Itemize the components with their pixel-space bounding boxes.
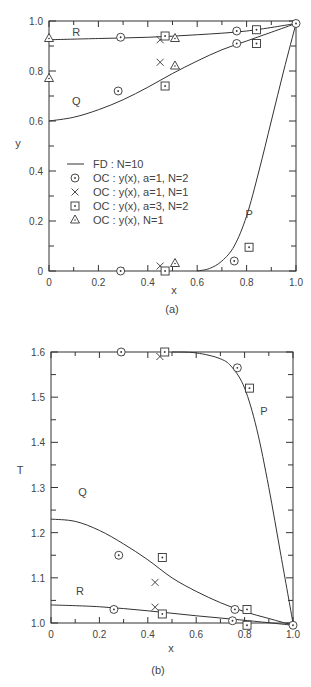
marker-dot xyxy=(161,557,163,559)
curve-label-r: R xyxy=(72,26,80,38)
chart-a-markers xyxy=(45,20,301,276)
marker-dot xyxy=(256,43,258,45)
fd-curve xyxy=(172,352,293,623)
curve-label-q: Q xyxy=(78,486,87,498)
chart-a-panel-label: (a) xyxy=(165,303,178,315)
chart-a-legend: FD : N=10OC : y(x), a=1, N=2OC : y(x), a… xyxy=(67,158,188,226)
plot-frame xyxy=(49,21,296,271)
chart-b-curve-labels: PQR xyxy=(76,405,268,598)
marker-dot xyxy=(74,219,76,221)
chart-b-panel-label: (b) xyxy=(151,664,164,676)
marker-dot xyxy=(246,609,248,611)
triangle-marker xyxy=(170,34,179,42)
marker-dot xyxy=(74,205,76,207)
chart-a-ylabel: y xyxy=(15,137,21,149)
chart-a: 00.20.40.60.81.000.20.40.60.81.0 RQP FD … xyxy=(0,0,311,340)
y-tick-label: 1.6 xyxy=(31,347,45,358)
legend-item-label: OC : y(x), a=1, N=2 xyxy=(93,172,188,184)
chart-b-curves xyxy=(51,352,293,625)
marker-dot xyxy=(174,263,176,265)
marker-dot xyxy=(174,38,176,40)
x-tick-label: 0 xyxy=(46,277,52,288)
x-tick-label: 0.8 xyxy=(238,629,252,640)
y-tick-label: 0.4 xyxy=(29,166,43,177)
chart-b-xlabel: x xyxy=(168,642,174,654)
marker-dot xyxy=(120,351,122,353)
x-tick-label: 0.6 xyxy=(190,277,204,288)
y-tick-label: 1.1 xyxy=(31,573,45,584)
triangle-marker xyxy=(71,215,80,223)
legend-item-label: OC : y(x), a=3, N=2 xyxy=(93,200,188,212)
marker-dot xyxy=(248,246,250,248)
y-tick-label: 1.2 xyxy=(31,528,45,539)
marker-dot xyxy=(249,387,251,389)
cross-marker xyxy=(152,579,159,586)
chart-b-axes: 00.20.40.60.81.01.01.11.21.31.41.51.6 xyxy=(31,347,300,640)
x-tick-label: 0.2 xyxy=(91,277,105,288)
marker-dot xyxy=(164,351,166,353)
chart-a-curves xyxy=(49,24,296,272)
curve-label-r: R xyxy=(76,585,84,597)
marker-dot xyxy=(246,624,248,626)
marker-dot xyxy=(233,260,235,262)
curve-label-p: P xyxy=(260,405,267,417)
x-tick-label: 0.6 xyxy=(189,629,203,640)
y-tick-label: 1.3 xyxy=(31,483,45,494)
chart-a-xlabel: x xyxy=(171,284,177,296)
marker-dot xyxy=(236,30,238,32)
y-tick-label: 0.8 xyxy=(29,66,43,77)
marker-dot xyxy=(236,43,238,45)
marker-dot xyxy=(164,270,166,272)
marker-dot xyxy=(292,624,294,626)
marker-dot xyxy=(48,38,50,40)
chart-b: 00.20.40.60.81.01.01.11.21.31.41.51.6 PQ… xyxy=(0,340,311,687)
triangle-marker xyxy=(45,34,54,42)
curve-label-q: Q xyxy=(72,95,81,107)
plot-frame xyxy=(51,352,293,623)
legend-item-label: OC : y(x), N=1 xyxy=(93,214,164,226)
x-tick-label: 0.2 xyxy=(92,629,106,640)
marker-dot xyxy=(161,613,163,615)
marker-dot xyxy=(256,29,258,31)
marker-dot xyxy=(232,620,234,622)
x-tick-label: 1.0 xyxy=(289,277,303,288)
chart-a-axes: 00.20.40.60.81.000.20.40.60.81.0 xyxy=(29,16,303,288)
x-tick-label: 0.4 xyxy=(141,629,155,640)
cross-marker xyxy=(72,189,79,196)
marker-dot xyxy=(164,85,166,87)
y-tick-label: 1.0 xyxy=(29,16,43,27)
y-tick-label: 1.5 xyxy=(31,392,45,403)
marker-dot xyxy=(236,367,238,369)
chart-b-ylabel: T xyxy=(17,464,24,476)
legend-item-label: OC : y(x), a=1, N=1 xyxy=(93,186,188,198)
marker-dot xyxy=(120,270,122,272)
marker-dot xyxy=(48,78,50,80)
marker-dot xyxy=(118,554,120,556)
y-tick-label: 0 xyxy=(37,266,43,277)
marker-dot xyxy=(174,65,176,67)
fd-curve xyxy=(51,519,293,625)
marker-dot xyxy=(234,609,236,611)
x-tick-label: 0 xyxy=(48,629,54,640)
x-tick-label: 0.4 xyxy=(141,277,155,288)
y-tick-label: 0.6 xyxy=(29,116,43,127)
triangle-marker xyxy=(170,259,179,267)
fd-curve xyxy=(197,24,296,272)
marker-dot xyxy=(295,23,297,25)
marker-dot xyxy=(120,36,122,38)
marker-dot xyxy=(74,177,76,179)
x-tick-label: 0.8 xyxy=(240,277,254,288)
triangle-marker xyxy=(170,61,179,69)
marker-dot xyxy=(117,90,119,92)
y-tick-label: 1.0 xyxy=(31,618,45,629)
marker-dot xyxy=(113,609,115,611)
y-tick-label: 0.2 xyxy=(29,216,43,227)
x-tick-label: 1.0 xyxy=(286,629,300,640)
cross-marker xyxy=(157,59,164,66)
triangle-marker xyxy=(45,74,54,82)
y-tick-label: 1.4 xyxy=(31,437,45,448)
curve-label-p: P xyxy=(245,208,252,220)
cross-marker xyxy=(152,604,159,611)
marker-dot xyxy=(164,35,166,37)
legend-item-label: FD : N=10 xyxy=(93,158,143,170)
